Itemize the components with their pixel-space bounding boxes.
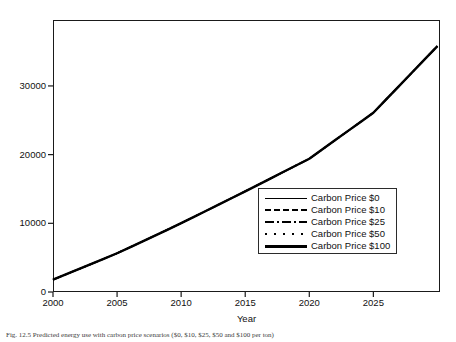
x-tick-label: 2025 (363, 297, 384, 308)
y-tick-label: 20000 (20, 150, 46, 160)
legend-line-sample-solid-thin (263, 192, 309, 204)
legend-row: Carbon Price $100 (263, 240, 392, 252)
legend-row: Carbon Price $25 (263, 216, 392, 228)
legend-row: Carbon Price $50 (263, 228, 392, 240)
legend-row: Carbon Price $10 (263, 204, 392, 216)
legend-line-sample-dash-dot (263, 216, 309, 228)
x-tick-label: 2015 (235, 297, 256, 308)
legend-line-sample-solid-thick (263, 240, 309, 252)
legend-line-sample-dashed (263, 204, 309, 216)
figure-caption: Fig. 12.5 Predicted energy use with carb… (6, 331, 450, 339)
legend-label: Carbon Price $10 (309, 204, 385, 216)
x-tick-label: 2005 (106, 297, 127, 308)
legend-row: Carbon Price $0 (263, 192, 392, 204)
x-tick-label: 2020 (299, 297, 320, 308)
legend-label: Carbon Price $0 (309, 192, 380, 204)
x-tick-label: 2010 (171, 297, 192, 308)
y-axis-tick-labels: 0100002000030000 (0, 0, 46, 342)
legend-line-sample-dotted (263, 228, 309, 240)
y-tick-label: 10000 (20, 218, 46, 228)
chart-legend: Carbon Price $0Carbon Price $10Carbon Pr… (258, 188, 397, 254)
y-tick-label: 0 (41, 287, 46, 297)
x-axis-title: Year (53, 313, 440, 324)
legend-label: Carbon Price $50 (309, 228, 385, 240)
figure: 0100002000030000 20002005201020152020202… (0, 0, 456, 342)
x-tick-label: 2000 (42, 297, 63, 308)
legend-label: Carbon Price $25 (309, 216, 385, 228)
x-axis-tick-labels: 200020052010201520202025 (0, 297, 456, 311)
legend-label: Carbon Price $100 (309, 240, 390, 252)
y-tick-label: 30000 (20, 81, 46, 91)
